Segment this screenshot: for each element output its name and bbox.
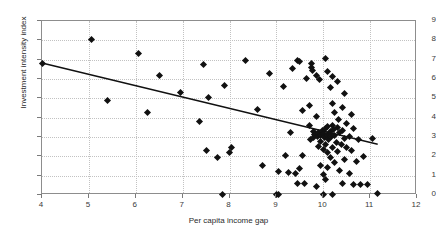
x-tick-label: 8 — [217, 201, 241, 209]
x-tick-mark — [369, 194, 370, 198]
x-tick-label: 7 — [170, 201, 194, 209]
y-tick-mark — [37, 59, 41, 60]
data-point — [306, 102, 313, 109]
data-point — [203, 147, 210, 154]
data-point — [341, 90, 348, 97]
y-tick-label: 5 — [414, 93, 436, 101]
data-point — [329, 100, 336, 107]
data-point — [275, 168, 282, 175]
x-tick-label: 9 — [263, 201, 287, 209]
data-point — [144, 109, 151, 116]
data-point — [350, 125, 357, 132]
y-tick-label: 8 — [414, 35, 436, 43]
data-point — [303, 74, 310, 81]
data-point — [364, 181, 371, 188]
data-point — [348, 147, 355, 154]
data-point — [135, 50, 142, 57]
data-point — [341, 156, 348, 163]
data-point — [219, 190, 226, 197]
data-point — [242, 57, 249, 64]
data-point — [205, 94, 212, 101]
data-point — [338, 103, 345, 110]
plot-area — [41, 20, 416, 194]
data-point — [350, 181, 357, 188]
data-point — [338, 180, 345, 187]
y-tick-label: 0 — [414, 190, 436, 198]
y-tick-label: 6 — [414, 74, 436, 82]
data-point — [322, 176, 329, 183]
x-tick-label: 4 — [29, 201, 53, 209]
data-points — [42, 21, 415, 193]
y-tick-mark — [37, 97, 41, 98]
x-tick-mark — [135, 194, 136, 198]
data-point — [296, 58, 303, 65]
x-tick-label: 6 — [123, 201, 147, 209]
data-point — [327, 84, 334, 91]
data-point — [360, 153, 367, 160]
data-point — [331, 159, 338, 166]
data-point — [104, 97, 111, 104]
x-tick-label: 12 — [404, 201, 428, 209]
data-point — [285, 169, 292, 176]
data-point — [280, 83, 287, 90]
data-point — [214, 154, 221, 161]
data-point — [334, 78, 341, 85]
data-point — [228, 144, 235, 151]
x-tick-label: 10 — [310, 201, 334, 209]
x-tick-label: 5 — [76, 201, 100, 209]
y-tick-label: 4 — [414, 113, 436, 121]
y-tick-label: 2 — [414, 151, 436, 159]
x-tick-mark — [229, 194, 230, 198]
data-point — [322, 55, 329, 62]
data-point — [331, 109, 338, 116]
data-point — [343, 120, 350, 127]
x-tick-label: 11 — [357, 201, 381, 209]
data-point — [316, 76, 323, 83]
data-point — [200, 61, 207, 68]
data-point — [287, 129, 294, 136]
data-point — [369, 135, 376, 142]
y-tick-mark — [37, 117, 41, 118]
x-tick-mark — [88, 194, 89, 198]
data-point — [313, 113, 320, 120]
data-point — [221, 82, 228, 89]
y-tick-mark — [37, 175, 41, 176]
data-point — [334, 148, 341, 155]
x-tick-mark — [416, 194, 417, 198]
data-point — [156, 72, 163, 79]
data-point — [320, 190, 327, 197]
data-point — [282, 152, 289, 159]
data-point — [329, 190, 336, 197]
data-point — [266, 70, 273, 77]
x-tick-mark — [182, 194, 183, 198]
data-point — [324, 164, 331, 171]
data-point — [299, 152, 306, 159]
data-point — [348, 111, 355, 118]
x-tick-mark — [41, 194, 42, 198]
data-point — [301, 179, 308, 186]
data-point — [313, 183, 320, 190]
x-tick-mark — [322, 194, 323, 198]
data-point — [345, 170, 352, 177]
scatter-chart-figure: 0123456789 456789101112 Investment inten… — [0, 0, 436, 239]
y-tick-label: 3 — [414, 132, 436, 140]
data-point — [259, 161, 266, 168]
data-point — [38, 60, 45, 67]
y-tick-mark — [37, 20, 41, 21]
data-point — [353, 158, 360, 165]
y-tick-mark — [37, 39, 41, 40]
data-point — [335, 116, 342, 123]
data-point — [254, 106, 261, 113]
y-tick-mark — [37, 136, 41, 137]
data-point — [289, 65, 296, 72]
data-point — [336, 167, 343, 174]
data-point — [88, 36, 95, 43]
data-point — [355, 136, 362, 143]
y-tick-label: 9 — [414, 16, 436, 24]
x-axis-label: Per capita income gap — [41, 216, 416, 225]
y-tick-mark — [37, 78, 41, 79]
data-point — [195, 118, 202, 125]
x-tick-mark — [275, 194, 276, 198]
data-point — [374, 190, 381, 197]
data-point — [177, 89, 184, 96]
